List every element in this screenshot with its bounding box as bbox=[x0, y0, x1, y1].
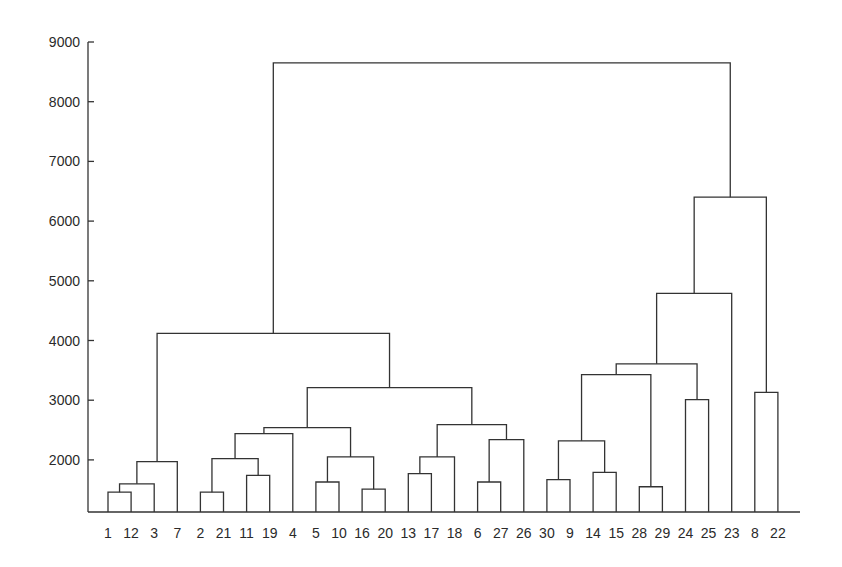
cluster-link bbox=[657, 293, 732, 512]
cluster-link bbox=[108, 492, 131, 512]
leaf-label: 30 bbox=[539, 525, 555, 541]
y-tick-label: 3000 bbox=[49, 392, 80, 408]
leaf-label: 5 bbox=[312, 525, 320, 541]
cluster-link bbox=[694, 197, 766, 392]
cluster-link bbox=[137, 462, 177, 512]
leaf-label: 19 bbox=[262, 525, 278, 541]
leaf-label: 24 bbox=[678, 525, 694, 541]
cluster-link bbox=[639, 487, 662, 512]
cluster-link bbox=[316, 482, 339, 512]
cluster-link bbox=[408, 474, 431, 512]
y-axis: 20003000400050006000700080009000 bbox=[49, 34, 800, 512]
leaf-label: 17 bbox=[424, 525, 440, 541]
cluster-link bbox=[264, 428, 351, 457]
cluster-link bbox=[327, 457, 373, 489]
cluster-link bbox=[120, 484, 155, 512]
leaf-label: 16 bbox=[354, 525, 370, 541]
y-tick-label: 9000 bbox=[49, 34, 80, 50]
leaf-label: 22 bbox=[770, 525, 786, 541]
dendrogram-links bbox=[108, 63, 778, 512]
y-tick-label: 2000 bbox=[49, 452, 80, 468]
leaf-label: 20 bbox=[377, 525, 393, 541]
leaf-label: 8 bbox=[751, 525, 759, 541]
cluster-link bbox=[307, 388, 472, 428]
cluster-link bbox=[437, 425, 506, 457]
y-tick-label: 7000 bbox=[49, 153, 80, 169]
cluster-link bbox=[582, 375, 651, 487]
y-tick-label: 8000 bbox=[49, 94, 80, 110]
leaf-label: 1 bbox=[104, 525, 112, 541]
leaf-label: 10 bbox=[331, 525, 347, 541]
cluster-link bbox=[235, 434, 293, 512]
cluster-link bbox=[478, 482, 501, 512]
leaf-label: 26 bbox=[516, 525, 532, 541]
y-tick-label: 5000 bbox=[49, 273, 80, 289]
leaf-label: 3 bbox=[150, 525, 158, 541]
leaf-label: 13 bbox=[401, 525, 417, 541]
leaf-label: 28 bbox=[632, 525, 648, 541]
cluster-link bbox=[547, 480, 570, 512]
cluster-link bbox=[593, 472, 616, 512]
cluster-link bbox=[200, 492, 223, 512]
cluster-link bbox=[489, 440, 524, 512]
cluster-link bbox=[247, 475, 270, 512]
cluster-link bbox=[755, 392, 778, 512]
leaf-label: 25 bbox=[701, 525, 717, 541]
leaf-label: 27 bbox=[493, 525, 509, 541]
leaf-label: 6 bbox=[474, 525, 482, 541]
y-tick-label: 4000 bbox=[49, 333, 80, 349]
leaf-label: 2 bbox=[197, 525, 205, 541]
leaf-label: 12 bbox=[123, 525, 139, 541]
cluster-link bbox=[420, 457, 455, 512]
leaf-label: 21 bbox=[216, 525, 232, 541]
leaf-label: 29 bbox=[655, 525, 671, 541]
leaf-labels: 1123722111194510162013171862726309141528… bbox=[104, 525, 786, 541]
cluster-link bbox=[362, 489, 385, 512]
leaf-label: 14 bbox=[585, 525, 601, 541]
leaf-label: 15 bbox=[608, 525, 624, 541]
leaf-label: 7 bbox=[173, 525, 181, 541]
leaf-label: 4 bbox=[289, 525, 297, 541]
leaf-label: 18 bbox=[447, 525, 463, 541]
leaf-label: 23 bbox=[724, 525, 740, 541]
y-tick-label: 6000 bbox=[49, 213, 80, 229]
cluster-link bbox=[686, 400, 709, 512]
leaf-label: 11 bbox=[239, 525, 254, 541]
cluster-link bbox=[616, 364, 697, 400]
cluster-link bbox=[157, 333, 389, 461]
leaf-label: 9 bbox=[566, 525, 574, 541]
dendrogram-chart: 20003000400050006000700080009000 1123722… bbox=[0, 0, 842, 567]
cluster-link bbox=[558, 441, 604, 480]
